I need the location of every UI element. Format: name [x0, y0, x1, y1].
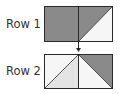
row-2-block	[45, 55, 113, 89]
row-1-block	[45, 7, 113, 42]
row-1-left-square	[45, 7, 79, 42]
quilt-diagram	[0, 0, 120, 94]
down-arrow-icon	[76, 42, 81, 52]
